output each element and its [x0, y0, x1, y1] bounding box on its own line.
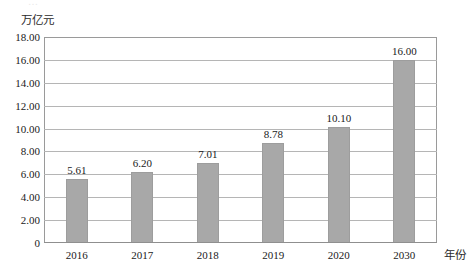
y-axis-tick-label: 0	[0, 238, 40, 249]
bar-chart: … 万亿元 02.004.006.008.0010.0012.0014.0016…	[0, 0, 475, 279]
clipped-text-artifact: …	[28, 0, 39, 7]
y-axis-tick-label: 10.00	[0, 123, 40, 134]
bar-slot: 8.78	[241, 37, 307, 243]
bar-value-label-2016: 5.61	[67, 165, 86, 176]
y-axis-tick-labels: 02.004.006.008.0010.0012.0014.0016.0018.…	[0, 37, 40, 243]
y-axis-tick-label: 2.00	[0, 215, 40, 226]
x-axis-tick-label-2019: 2019	[262, 249, 284, 261]
bar-2018[interactable]	[197, 163, 219, 243]
x-axis-title: 年份	[444, 249, 466, 262]
x-axis-line	[44, 242, 437, 243]
bar-slot: 7.01	[175, 37, 241, 243]
y-axis-tick-label: 14.00	[0, 77, 40, 88]
bar-2017[interactable]	[131, 172, 153, 243]
x-axis-tick-label-2020: 2020	[328, 249, 350, 261]
plot-area: 5.616.207.018.7810.1016.00	[44, 37, 437, 243]
x-axis-tick-labels: 201620172018201920202030	[44, 249, 437, 265]
bar-2019[interactable]	[262, 143, 284, 243]
bar-value-label-2018: 7.01	[198, 149, 217, 160]
bar-value-label-2019: 8.78	[264, 129, 283, 140]
y-axis-tick-label: 8.00	[0, 146, 40, 157]
x-axis-tick-label-2018: 2018	[197, 249, 219, 261]
y-axis-tick-label: 4.00	[0, 192, 40, 203]
bar-2020[interactable]	[328, 127, 350, 243]
bar-value-label-2030: 16.00	[392, 46, 417, 57]
bar-value-label-2017: 6.20	[133, 158, 152, 169]
y-axis-tick-label: 18.00	[0, 32, 40, 43]
x-axis-tick-label-2017: 2017	[131, 249, 153, 261]
bar-value-label-2020: 10.10	[326, 113, 351, 124]
y-axis-tick-label: 12.00	[0, 100, 40, 111]
x-axis-tick-label-2016: 2016	[66, 249, 88, 261]
y-axis-title: 万亿元	[21, 14, 54, 27]
bar-slot: 5.61	[44, 37, 110, 243]
bar-slot: 16.00	[372, 37, 438, 243]
bars-layer: 5.616.207.018.7810.1016.00	[44, 37, 437, 243]
y-axis-tick-label: 6.00	[0, 169, 40, 180]
bar-2030[interactable]	[393, 60, 415, 243]
x-axis-tick-label-2030: 2030	[393, 249, 415, 261]
bar-slot: 6.20	[110, 37, 176, 243]
bar-2016[interactable]	[66, 179, 88, 243]
y-axis-tick-label: 16.00	[0, 54, 40, 65]
bar-slot: 10.10	[306, 37, 372, 243]
